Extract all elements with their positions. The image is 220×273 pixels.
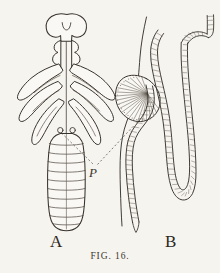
figure-label-b: B: [165, 233, 177, 250]
larva-legs-right: [68, 64, 115, 145]
figure-b-detail: [116, 15, 214, 232]
figure-plate: A B P FIG. 16.: [0, 0, 220, 273]
tracheal-tube-tips: [133, 222, 139, 232]
figure-caption: FIG. 16.: [0, 251, 220, 261]
larva-head-icon: [46, 14, 86, 41]
tracheal-branch-hook: [181, 15, 213, 44]
figure-a-larva: [17, 14, 115, 231]
gill-fan-icon: [116, 75, 161, 121]
larva-abdomen: [48, 134, 86, 231]
figure-label-a: A: [50, 233, 63, 250]
annotation-label-p: P: [89, 166, 97, 179]
tracheal-tube-loop: [151, 30, 196, 200]
plate-illustration: [0, 0, 220, 273]
larva-legs-left: [17, 64, 64, 145]
